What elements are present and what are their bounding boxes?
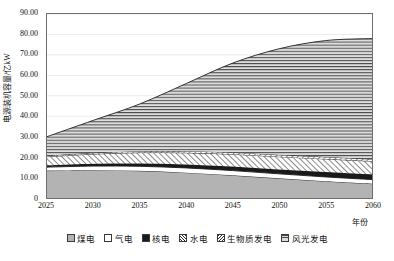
legend-swatch-icon <box>179 234 187 242</box>
legend-label: 风光发电 <box>292 232 328 244</box>
legend-label: 核电 <box>152 232 170 244</box>
y-tick-label: 50.00 <box>0 92 42 100</box>
stacked-area-chart: 电源装机容量/亿kW 010.0020.0030.0040.0050.0060.… <box>0 0 394 261</box>
legend-item-6[interactable]: 风光发电 <box>281 232 328 244</box>
x-axis-tick-labels: 20252030203520402045205020552060 <box>0 201 394 215</box>
y-tick-label: 10.00 <box>0 174 42 182</box>
legend-item-5[interactable]: 生物质发电 <box>217 232 273 244</box>
y-tick-label: 90.00 <box>0 9 42 17</box>
legend-swatch-icon <box>104 234 112 242</box>
legend-label: 水电 <box>190 232 208 244</box>
y-tick-label: 80.00 <box>0 30 42 38</box>
legend-item-2[interactable]: 气电 <box>104 232 133 244</box>
legend-swatch-icon <box>217 234 225 242</box>
legend: 煤电气电核电水电生物质发电风光发电 <box>0 232 394 244</box>
x-axis-title: 年份 <box>352 216 368 227</box>
legend-item-1[interactable]: 煤电 <box>67 232 96 244</box>
y-tick-label: 70.00 <box>0 50 42 58</box>
x-tick-label: 2055 <box>306 201 346 211</box>
legend-swatch-icon <box>67 234 75 242</box>
y-tick-label: 30.00 <box>0 133 42 141</box>
x-tick-label: 2025 <box>26 201 66 211</box>
area-series-group <box>47 39 372 198</box>
legend-label: 煤电 <box>77 232 95 244</box>
legend-item-4[interactable]: 水电 <box>179 232 208 244</box>
x-tick-label: 2060 <box>353 201 393 211</box>
area-series <box>47 39 372 160</box>
y-tick-label: 20.00 <box>0 154 42 162</box>
x-tick-label: 2040 <box>166 201 206 211</box>
x-tick-label: 2030 <box>73 201 113 211</box>
legend-label: 生物质发电 <box>227 232 272 244</box>
legend-swatch-icon <box>142 234 150 242</box>
y-tick-label: 60.00 <box>0 71 42 79</box>
legend-swatch-icon <box>281 234 289 242</box>
y-axis-tick-labels: 010.0020.0030.0040.0050.0060.0070.0080.0… <box>0 0 42 200</box>
legend-label: 气电 <box>115 232 133 244</box>
plot-svg <box>47 14 372 198</box>
legend-item-3[interactable]: 核电 <box>142 232 171 244</box>
x-tick-label: 2045 <box>213 201 253 211</box>
x-tick-label: 2035 <box>119 201 159 211</box>
plot-area <box>46 13 373 199</box>
x-tick-label: 2050 <box>260 201 300 211</box>
y-tick-label: 40.00 <box>0 112 42 120</box>
